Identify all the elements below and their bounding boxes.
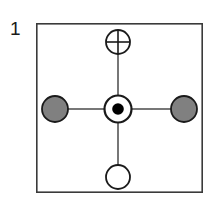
node-bottom-open-circle xyxy=(106,165,130,189)
diagram-canvas xyxy=(0,0,215,202)
figure-container: 1 xyxy=(0,0,215,202)
node-top-crossed-circle xyxy=(106,30,130,54)
node-center-bullseye xyxy=(105,96,132,123)
node-right-filled-gray-circle xyxy=(171,96,197,122)
node-left-filled-gray-circle xyxy=(42,96,68,122)
